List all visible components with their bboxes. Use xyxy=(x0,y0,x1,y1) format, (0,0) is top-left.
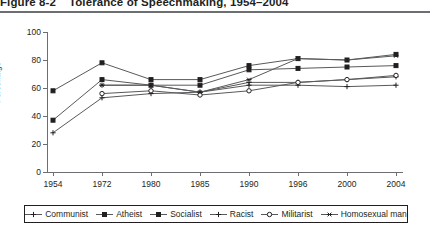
x-tick xyxy=(298,172,299,176)
series-communist xyxy=(50,74,398,135)
data-point xyxy=(149,78,153,82)
data-point xyxy=(51,118,55,122)
legend-marker-icon xyxy=(150,210,167,219)
figure-title-line: Figure 8-2Tolerance of Speechmaking, 195… xyxy=(0,0,288,8)
chart-legend: CommunistAtheistSocialistRacistMilitaris… xyxy=(24,205,408,223)
legend-marker-glyph xyxy=(216,211,221,216)
x-tick xyxy=(200,172,201,176)
data-point xyxy=(100,61,104,65)
y-tick-label: 20 xyxy=(1,140,41,149)
y-tick-label: 80 xyxy=(1,56,41,65)
legend-label: Atheist xyxy=(116,209,142,219)
x-tick xyxy=(347,172,348,176)
data-point xyxy=(393,83,398,88)
legend-item-socialist[interactable]: Socialist xyxy=(150,209,202,219)
series-homosexual-man xyxy=(99,54,398,94)
data-point xyxy=(100,91,104,95)
x-tick xyxy=(249,172,250,176)
data-point xyxy=(345,77,349,81)
legend-marker-icon xyxy=(321,210,338,219)
data-point xyxy=(394,73,398,77)
title-divider xyxy=(0,11,430,13)
legend-marker-icon xyxy=(210,210,227,219)
data-point xyxy=(246,83,251,88)
data-point xyxy=(198,83,202,87)
legend-marker-icon xyxy=(25,210,42,219)
legend-marker-glyph xyxy=(268,212,272,216)
x-tick xyxy=(151,172,152,176)
legend-label: Homosexual man xyxy=(341,209,407,219)
figure-container: Figure 8-2Tolerance of Speechmaking, 195… xyxy=(0,0,430,234)
data-point xyxy=(296,80,300,84)
legend-item-atheist[interactable]: Atheist xyxy=(96,209,142,219)
data-point xyxy=(345,65,349,69)
plot-area xyxy=(47,32,402,172)
data-point xyxy=(100,78,104,82)
legend-item-racist[interactable]: Racist xyxy=(210,209,254,219)
data-point xyxy=(296,66,300,70)
y-axis-labels: 020406080100 xyxy=(0,0,41,180)
legend-label: Racist xyxy=(230,209,254,219)
y-tick-label: 40 xyxy=(1,112,41,121)
y-tick-label: 0 xyxy=(1,168,41,177)
legend-marker-icon xyxy=(96,210,113,219)
legend-item-militarist[interactable]: Militarist xyxy=(261,209,312,219)
data-point xyxy=(394,64,398,68)
data-point xyxy=(51,89,55,93)
legend-marker-glyph xyxy=(327,212,332,216)
figure-caption: Tolerance of Speechmaking, 1954–2004 xyxy=(69,0,288,8)
y-tick-label: 100 xyxy=(1,28,41,37)
x-tick-label: 2004 xyxy=(366,180,426,189)
data-point xyxy=(247,89,251,93)
legend-marker-glyph xyxy=(157,212,161,216)
legend-label: Militarist xyxy=(281,209,312,219)
x-axis-line xyxy=(47,172,403,173)
legend-label: Communist xyxy=(45,209,88,219)
legend-item-homosexual-man[interactable]: Homosexual man xyxy=(321,209,407,219)
data-point xyxy=(247,68,251,72)
x-tick xyxy=(396,172,397,176)
y-tick-label: 60 xyxy=(1,84,41,93)
legend-item-communist[interactable]: Communist xyxy=(25,209,88,219)
data-point xyxy=(198,78,202,82)
data-point xyxy=(149,89,153,93)
data-point xyxy=(247,64,251,68)
x-tick xyxy=(53,172,54,176)
x-tick xyxy=(102,172,103,176)
series-layer xyxy=(47,32,402,172)
data-point xyxy=(344,84,349,89)
legend-marker-icon xyxy=(261,210,278,219)
y-tick xyxy=(43,172,47,173)
legend-label: Socialist xyxy=(170,209,202,219)
legend-marker-glyph xyxy=(103,212,107,216)
legend-marker-glyph xyxy=(31,211,36,216)
